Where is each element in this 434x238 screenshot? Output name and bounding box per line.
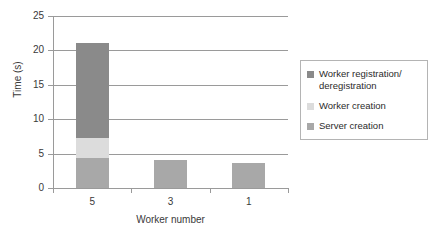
- x-tick-mark: [53, 188, 54, 193]
- bar-stack: [154, 160, 187, 188]
- legend-swatch-icon: [307, 71, 314, 78]
- y-tick-label: 15: [4, 79, 44, 90]
- legend-label: Worker registration/ deregistration: [319, 68, 422, 92]
- bar-segment: [76, 158, 109, 188]
- legend-label: Server creation: [319, 120, 383, 132]
- legend-item: Worker registration/ deregistration: [307, 68, 422, 92]
- bar-stack: [232, 163, 265, 188]
- x-tick-label: 1: [224, 196, 274, 207]
- bar-stack: [76, 43, 109, 188]
- gridline: [53, 188, 288, 189]
- y-tick-label: 5: [4, 148, 44, 159]
- y-tick-label: 0: [4, 182, 44, 193]
- x-tick-mark: [131, 188, 132, 193]
- legend-swatch-icon: [307, 103, 314, 110]
- bar-segment: [76, 43, 109, 138]
- chart-figure: Time (s) 0510152025 531 Worker number Wo…: [0, 0, 434, 238]
- legend-swatch-icon: [307, 123, 314, 130]
- chart-legend: Worker registration/ deregistrationWorke…: [300, 60, 428, 140]
- gridline: [53, 16, 288, 17]
- bar-segment: [154, 160, 187, 188]
- legend-label: Worker creation: [319, 100, 386, 112]
- bar-segment: [232, 163, 265, 188]
- plot-area: [53, 16, 288, 188]
- legend-item: Server creation: [307, 120, 422, 132]
- x-tick-mark: [288, 188, 289, 193]
- x-axis-title: Worker number: [53, 214, 288, 225]
- y-tick-label: 20: [4, 44, 44, 55]
- y-tick-label: 25: [4, 10, 44, 21]
- x-tick-label: 3: [146, 196, 196, 207]
- legend-item: Worker creation: [307, 100, 422, 112]
- bar-segment: [76, 138, 109, 158]
- x-tick-mark: [210, 188, 211, 193]
- y-tick-label: 10: [4, 113, 44, 124]
- x-tick-label: 5: [67, 196, 117, 207]
